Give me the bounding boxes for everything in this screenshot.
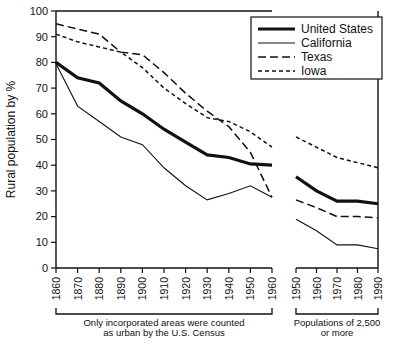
x-tick-label: 1880 [93, 277, 105, 301]
legend-label: Iowa [301, 64, 327, 78]
x-tick-label: 1940 [223, 277, 235, 301]
y-tick-label: 100 [30, 5, 48, 17]
x-tick-label: 1870 [72, 277, 84, 301]
x-tick-label: 1950 [290, 277, 302, 301]
x-tick-label: 1960 [311, 277, 323, 301]
y-tick-label: 20 [36, 210, 48, 222]
chart-canvas: 0102030405060708090100Rural population b… [0, 0, 394, 346]
series-line-california [56, 64, 272, 200]
series-line-texas [56, 24, 272, 197]
x-tick-label: 1960 [266, 277, 278, 301]
y-tick-label: 80 [36, 56, 48, 68]
y-axis-title: Rural population by % [4, 80, 18, 198]
y-tick-label: 30 [36, 185, 48, 197]
x-tick-label: 1900 [136, 277, 148, 301]
panel-bracket [56, 308, 272, 314]
series-line-iowa [296, 137, 378, 168]
series-line-california [296, 219, 378, 249]
panel-caption-line2: or more [321, 327, 354, 338]
legend-label: California [301, 36, 352, 50]
y-tick-label: 0 [42, 262, 48, 274]
x-tick-label: 1920 [180, 277, 192, 301]
series-line-united-states [296, 177, 378, 204]
rural-population-chart: 0102030405060708090100Rural population b… [0, 0, 394, 346]
x-tick-label: 1950 [244, 277, 256, 301]
x-tick-label: 1910 [158, 277, 170, 301]
panel-bracket [296, 308, 378, 314]
x-tick-label: 1860 [50, 277, 62, 301]
panel-caption-line2: as urban by the U.S. Census [103, 327, 225, 338]
y-tick-label: 10 [36, 236, 48, 248]
legend: United StatesCaliforniaTexasIowa [251, 17, 382, 79]
y-tick-label: 50 [36, 133, 48, 145]
x-tick-label: 1970 [331, 277, 343, 301]
x-tick-label: 1890 [115, 277, 127, 301]
x-tick-label: 1990 [372, 277, 384, 301]
x-tick-label: 1930 [201, 277, 213, 301]
legend-label: Texas [301, 50, 332, 64]
legend-label: United States [301, 22, 373, 36]
y-tick-label: 40 [36, 159, 48, 171]
y-tick-label: 90 [36, 31, 48, 43]
y-tick-label: 70 [36, 82, 48, 94]
y-tick-label: 60 [36, 108, 48, 120]
x-tick-label: 1980 [352, 277, 364, 301]
